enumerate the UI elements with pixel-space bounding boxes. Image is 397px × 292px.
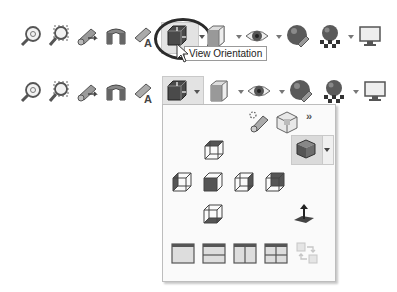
previous-view-icon	[75, 80, 99, 104]
chevron-down-icon	[353, 90, 359, 94]
apply-scene-button[interactable]	[322, 79, 346, 103]
scene-icon	[318, 24, 342, 48]
four-view-icon	[264, 241, 288, 265]
two-view-vertical-icon	[233, 241, 257, 265]
tooltip: View Orientation	[184, 46, 267, 61]
isometric-cube-icon	[295, 138, 317, 160]
view-selector-cube-icon	[275, 110, 299, 134]
front-view-button[interactable]	[202, 171, 224, 193]
zoom-area-icon	[47, 80, 71, 104]
cursor-icon	[176, 43, 190, 63]
annotation-view-icon: A	[132, 80, 156, 104]
toolbar-bottom: A	[0, 76, 397, 106]
appearance-sphere-icon	[286, 24, 310, 48]
edit-appearance-button[interactable]	[286, 24, 310, 48]
eye-icon	[245, 24, 269, 48]
left-view-cube-icon	[171, 171, 193, 193]
apply-scene-button[interactable]	[318, 24, 342, 48]
display-style-icon	[207, 79, 231, 103]
dynamic-annotation-views-button[interactable]: A	[132, 24, 156, 48]
view-orientation-caret[interactable]	[194, 90, 200, 94]
chevron-down-icon	[348, 35, 354, 39]
two-view-vertical-button[interactable]	[233, 241, 257, 265]
previous-view-icon	[75, 24, 99, 48]
isometric-caret	[324, 148, 330, 152]
bottom-view-button[interactable]	[202, 203, 224, 225]
monitor-icon	[358, 24, 382, 48]
view-orientation-icon	[165, 79, 189, 103]
top-view-cube-icon	[203, 139, 225, 161]
back-view-button[interactable]	[264, 171, 286, 193]
normal-to-icon	[292, 201, 316, 225]
chevron-down-icon	[236, 35, 242, 39]
eye-icon	[247, 79, 271, 103]
mouse-cursor	[176, 43, 190, 63]
zoom-to-fit-button[interactable]	[19, 24, 43, 48]
section-view-icon	[104, 80, 128, 104]
previous-view-button[interactable]	[75, 24, 99, 48]
isometric-icon-wrap	[295, 138, 317, 160]
two-view-horizontal-icon	[202, 241, 226, 265]
camera-icon	[247, 110, 271, 134]
edit-appearance-button[interactable]	[289, 79, 313, 103]
zoom-to-fit-button[interactable]	[19, 80, 43, 104]
single-viewport-icon	[171, 241, 195, 265]
bottom-view-cube-icon	[202, 203, 224, 225]
single-view-button[interactable]	[171, 241, 195, 265]
zoom-fit-icon	[19, 24, 43, 48]
left-view-button[interactable]	[171, 171, 193, 193]
hide-show-items-button[interactable]	[247, 79, 271, 103]
appearance-sphere-icon	[289, 79, 313, 103]
link-views-button[interactable]	[295, 241, 319, 265]
scene-icon	[322, 79, 346, 103]
chevron-down-icon	[238, 90, 244, 94]
dynamic-annotation-views-button[interactable]: A	[132, 80, 156, 104]
display-style-caret[interactable]	[236, 35, 242, 39]
chevron-down-icon	[276, 35, 282, 39]
zoom-area-icon	[47, 24, 71, 48]
section-view-button[interactable]	[104, 80, 128, 104]
section-view-button[interactable]	[104, 24, 128, 48]
zoom-to-area-button[interactable]	[47, 24, 71, 48]
previous-view-button[interactable]	[75, 80, 99, 104]
chevron-down-icon	[279, 90, 285, 94]
hide-show-caret[interactable]	[276, 35, 282, 39]
hide-show-items-button[interactable]	[245, 24, 269, 48]
svg-text:A: A	[144, 37, 152, 48]
more-button[interactable]: »	[306, 110, 312, 122]
monitor-icon	[363, 79, 387, 103]
back-view-cube-icon	[264, 171, 286, 193]
view-settings-button[interactable]	[358, 24, 382, 48]
normal-to-button[interactable]	[292, 201, 316, 225]
display-style-caret[interactable]	[238, 90, 244, 94]
top-view-button[interactable]	[203, 139, 225, 161]
section-view-icon	[104, 24, 128, 48]
display-style-icon	[204, 24, 228, 48]
view-orientation-flyout: »	[162, 104, 336, 282]
new-view-button[interactable]	[247, 110, 271, 134]
view-selector-button[interactable]	[275, 110, 299, 134]
four-view-button[interactable]	[264, 241, 288, 265]
right-view-cube-icon	[233, 171, 255, 193]
two-view-horizontal-button[interactable]	[202, 241, 226, 265]
zoom-fit-icon	[19, 80, 43, 104]
zoom-to-area-button[interactable]	[47, 80, 71, 104]
chevron-down-icon	[194, 90, 200, 94]
apply-scene-caret[interactable]	[348, 35, 354, 39]
hide-show-caret[interactable]	[279, 90, 285, 94]
apply-scene-caret[interactable]	[353, 90, 359, 94]
view-orientation-button[interactable]	[165, 79, 189, 103]
link-views-icon	[295, 241, 319, 265]
svg-text:A: A	[144, 93, 152, 104]
view-settings-button[interactable]	[363, 79, 387, 103]
display-style-button[interactable]	[204, 24, 228, 48]
annotation-view-icon: A	[132, 24, 156, 48]
right-view-button[interactable]	[233, 171, 255, 193]
display-style-button[interactable]	[207, 79, 231, 103]
chevron-down-icon	[324, 148, 330, 152]
front-view-cube-icon	[202, 171, 224, 193]
